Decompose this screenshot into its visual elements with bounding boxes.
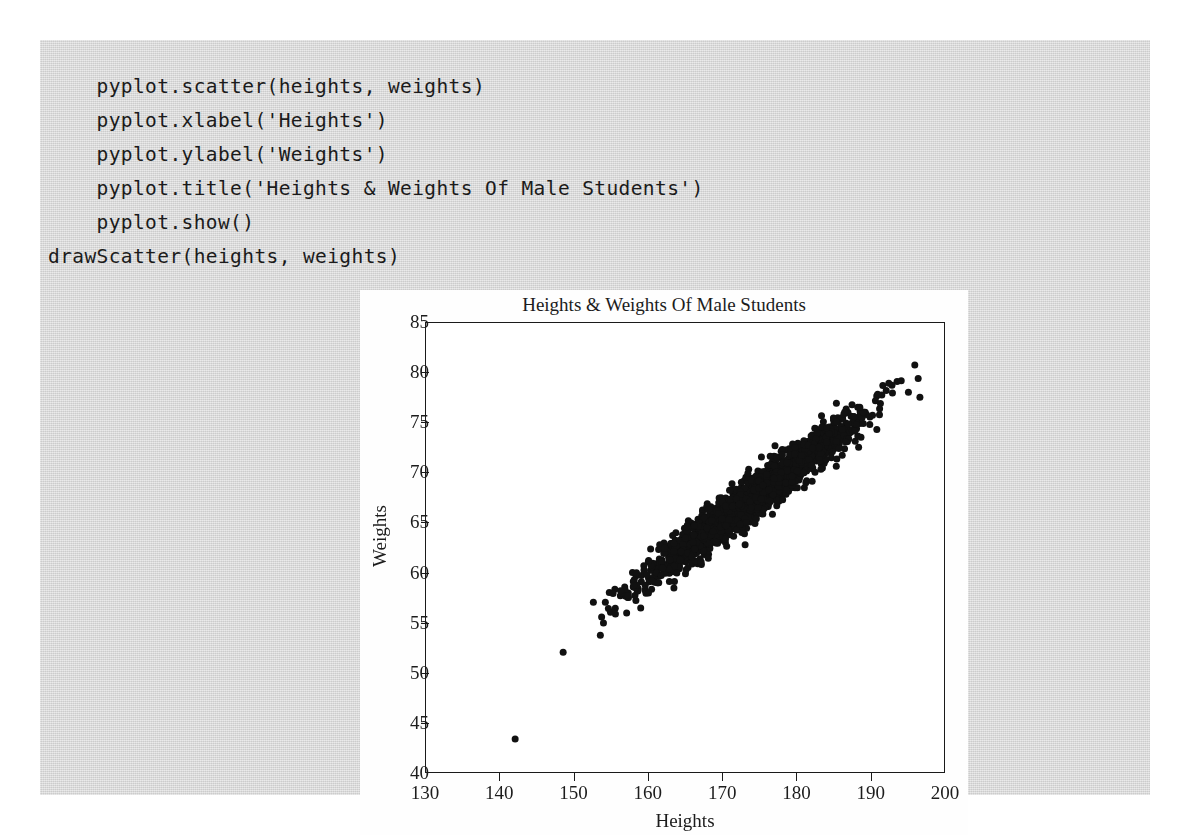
x-tick-label: 150	[544, 782, 604, 804]
y-tick-label: 45	[383, 712, 429, 734]
x-tick-label: 190	[841, 782, 901, 804]
code-listing-block: pyplot.scatter(heights, weights) pyplot.…	[40, 40, 1150, 795]
y-tick-label: 85	[383, 311, 429, 333]
python-code-text: pyplot.scatter(heights, weights) pyplot.…	[48, 70, 704, 274]
matplotlib-figure: Heights & Weights Of Male Students 40455…	[360, 290, 968, 835]
x-tick-label: 180	[766, 782, 826, 804]
chart-title: Heights & Weights Of Male Students	[360, 294, 968, 316]
y-tick-label: 80	[383, 361, 429, 383]
x-tick-mark	[648, 773, 649, 781]
y-tick-label: 40	[383, 762, 429, 784]
x-tick-mark	[796, 773, 797, 781]
x-tick-mark	[574, 773, 575, 781]
x-tick-mark	[499, 773, 500, 781]
x-axis-label: Heights	[425, 810, 945, 832]
x-tick-label: 130	[395, 782, 455, 804]
y-tick-label: 55	[383, 612, 429, 634]
plot-axes-frame	[425, 322, 945, 773]
x-tick-mark	[871, 773, 872, 781]
x-tick-label: 160	[618, 782, 678, 804]
x-tick-label: 140	[469, 782, 529, 804]
y-tick-label: 75	[383, 411, 429, 433]
y-axis-label: Weights	[369, 466, 391, 606]
x-tick-label: 200	[915, 782, 975, 804]
x-tick-label: 170	[692, 782, 752, 804]
y-tick-label: 50	[383, 662, 429, 684]
scatter-points-layer	[426, 323, 945, 773]
x-tick-mark	[722, 773, 723, 781]
